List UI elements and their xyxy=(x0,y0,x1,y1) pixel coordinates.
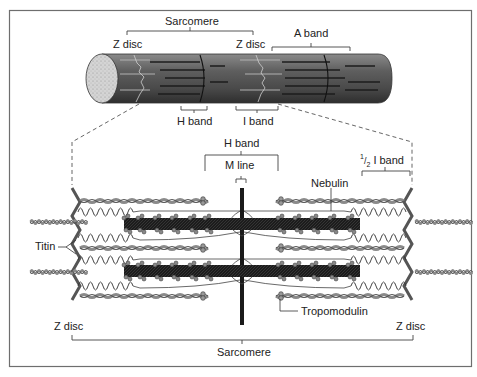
muscle-fiber-cylinder xyxy=(86,54,392,103)
label-z-disc-bottom-right: Z disc xyxy=(396,321,425,332)
label-nebulin: Nebulin xyxy=(311,178,348,189)
label-sarcomere-top: Sarcomere xyxy=(165,16,219,27)
fiber-end-cap xyxy=(86,54,118,103)
label-half-i-band: 1/2 I band xyxy=(360,153,404,168)
label-m-line: M line xyxy=(225,160,254,171)
label-titin: Titin xyxy=(35,241,55,252)
thick-filament-2 xyxy=(124,265,360,277)
fraction-denominator: 2 xyxy=(366,161,370,168)
label-sarcomere-bottom: Sarcomere xyxy=(217,347,271,358)
thick-filament-1 xyxy=(124,218,360,230)
label-z-disc-bottom-left: Z disc xyxy=(54,321,83,332)
label-a-band: A band xyxy=(294,28,328,39)
half-i-band-text: I band xyxy=(373,154,404,166)
label-h-band-detail: H band xyxy=(224,138,259,149)
m-line-bar xyxy=(240,188,244,325)
label-z-disc-top-left: Z disc xyxy=(113,39,142,50)
label-i-band-top: I band xyxy=(243,116,274,127)
label-tropomodulin: Tropomodulin xyxy=(301,306,368,317)
label-z-disc-top-right: Z disc xyxy=(236,39,265,50)
label-h-band-top: H band xyxy=(177,116,212,127)
